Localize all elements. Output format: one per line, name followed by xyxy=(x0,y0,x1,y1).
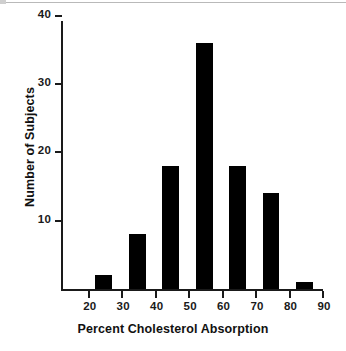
bar xyxy=(162,166,179,289)
x-axis-line xyxy=(61,289,323,291)
x-axis-tick xyxy=(255,291,257,298)
x-axis-title: Percent Cholesterol Absorption xyxy=(0,322,346,336)
x-axis-tick xyxy=(188,291,190,298)
y-axis-tick xyxy=(55,151,62,153)
y-axis-tick xyxy=(55,220,62,222)
bar xyxy=(296,282,313,289)
x-axis-tick xyxy=(322,291,324,298)
x-axis-tick-label: 90 xyxy=(304,300,344,312)
bar xyxy=(263,193,280,289)
x-axis-tick xyxy=(121,291,123,298)
histogram-figure: 10203040 2030405060708090 Number of Subj… xyxy=(0,0,346,351)
bar xyxy=(95,275,112,289)
y-axis-line xyxy=(61,21,63,290)
bar xyxy=(196,43,213,289)
y-axis-tick xyxy=(55,15,62,17)
y-axis-tick-label: 40 xyxy=(11,8,51,20)
y-axis-tick xyxy=(55,83,62,85)
chart-screenshot: 10203040 2030405060708090 Number of Subj… xyxy=(0,0,346,351)
bar xyxy=(129,234,146,289)
y-axis-title: Number of Subjects xyxy=(23,57,37,237)
bar xyxy=(229,166,246,289)
x-axis-tick xyxy=(88,291,90,298)
x-axis-tick xyxy=(155,291,157,298)
x-axis-tick xyxy=(222,291,224,298)
x-axis-tick xyxy=(289,291,291,298)
